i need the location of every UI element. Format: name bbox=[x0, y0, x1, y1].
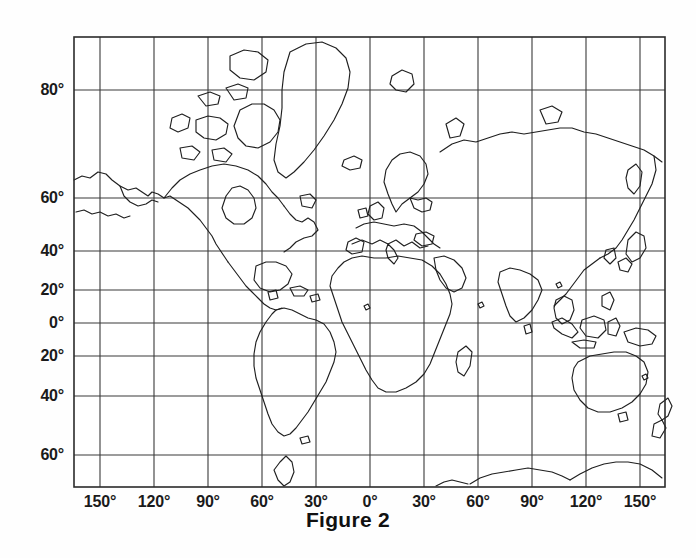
lat-label-20n: 20° bbox=[12, 281, 64, 299]
lat-label-80n: 80° bbox=[12, 81, 64, 99]
lat-label-60s: 60° bbox=[12, 446, 64, 464]
world-map bbox=[0, 0, 696, 558]
figure-container: 80° 60° 40° 20° 0° 20° 40° 60° 150° 120°… bbox=[0, 0, 696, 558]
lat-label-40n: 40° bbox=[12, 242, 64, 260]
lat-label-20s: 20° bbox=[12, 347, 64, 365]
lat-label-0: 0° bbox=[12, 314, 64, 332]
lat-label-40s: 40° bbox=[12, 387, 64, 405]
figure-caption: Figure 2 bbox=[0, 508, 696, 532]
lat-label-60n: 60° bbox=[12, 189, 64, 207]
